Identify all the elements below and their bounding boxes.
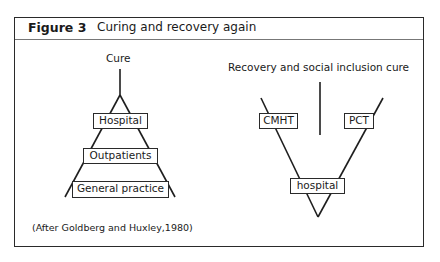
outpatients-level-box: Outpatients bbox=[83, 148, 158, 164]
recovery-label: Recovery and social inclusion cure bbox=[228, 61, 409, 73]
citation: (After Goldberg and Huxley,1980) bbox=[32, 222, 193, 233]
general-practice-level-box: General practice bbox=[72, 181, 169, 198]
cure-label: Cure bbox=[106, 52, 131, 64]
hospital-level-box: Hospital bbox=[93, 113, 148, 129]
cmht-box: CMHT bbox=[259, 113, 298, 129]
pyramid-lines bbox=[65, 69, 175, 197]
v-lines bbox=[261, 82, 383, 217]
pct-box: PCT bbox=[344, 113, 374, 129]
hospital-bottom-box: hospital bbox=[290, 178, 345, 194]
